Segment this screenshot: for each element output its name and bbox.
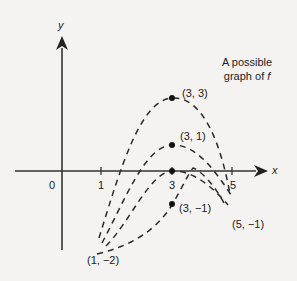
graph-caption: A possible graph of f bbox=[222, 55, 272, 83]
x-tick-label-5: 5 bbox=[230, 180, 236, 191]
curve-through-3-3 bbox=[99, 98, 230, 238]
x-axis-arrow-icon bbox=[254, 165, 268, 177]
label-point-3-1: (3, 1) bbox=[180, 131, 206, 142]
label-point-5-neg1: (5, −1) bbox=[232, 219, 264, 230]
diagram-canvas: y x 0 1 3 5 A possible graph of f (3, 3)… bbox=[0, 0, 297, 281]
curve-through-3-1 bbox=[102, 145, 233, 243]
caption-line2-prefix: graph of bbox=[224, 70, 267, 82]
label-point-3-neg1: (3, −1) bbox=[179, 203, 211, 214]
origin-label: 0 bbox=[49, 180, 55, 191]
label-point-3-3: (3, 3) bbox=[182, 88, 208, 99]
graph-svg bbox=[0, 0, 297, 281]
caption-function-name: f bbox=[267, 70, 270, 82]
y-axis-label: y bbox=[58, 20, 64, 31]
caption-line2: graph of f bbox=[222, 69, 272, 83]
x-axis-label: x bbox=[272, 165, 278, 176]
point-3-0 bbox=[169, 168, 175, 174]
label-point-1-neg2: (1, −2) bbox=[87, 255, 119, 266]
point-3-3 bbox=[169, 95, 175, 101]
caption-line1: A possible bbox=[222, 55, 272, 69]
x-tick-label-3: 3 bbox=[169, 180, 175, 191]
y-axis-arrow-icon bbox=[56, 36, 68, 50]
point-3-1 bbox=[169, 142, 175, 148]
x-tick-label-1: 1 bbox=[98, 180, 104, 191]
point-3-neg1 bbox=[169, 201, 175, 207]
